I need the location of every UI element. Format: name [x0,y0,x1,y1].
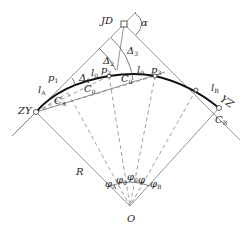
radius-line-zy [36,112,130,206]
lb-label: lB [211,82,219,94]
cb-label: CB [215,114,228,126]
p1-label: p1 [48,72,58,84]
zy-label: ZY [17,105,33,116]
ca-label: CA [54,95,67,107]
p3-label: p3 [151,64,161,76]
delta1-arc [72,78,75,86]
phib-label: φB [150,178,162,190]
l0-right-label: l0 [137,64,144,76]
r-label: R [75,166,84,177]
curve-layout-diagram: JD α Δ3 Δ2 Δ1 p1 l0 p2 l0 p3 lA C0 C0 CA… [0,0,247,236]
radial-dash-1 [68,93,130,206]
delta3-label: Δ3 [126,45,138,57]
chord-c0-a [36,76,109,112]
la-label: lA [38,84,46,96]
l0-left-label: l0 [91,67,98,79]
jd-point [121,21,127,27]
radial-dash-4 [130,90,196,206]
zy-point [34,110,39,115]
delta-ref-line-2 [117,24,124,70]
yz-point [217,106,222,111]
jd-label: JD [99,15,113,26]
lb-point [194,88,198,92]
phi-label: φ [138,174,145,185]
c0-lower-label: C0 [84,83,96,95]
alpha-label: α [141,17,148,28]
o-label: O [127,213,135,224]
radius-line-yz [130,108,219,206]
